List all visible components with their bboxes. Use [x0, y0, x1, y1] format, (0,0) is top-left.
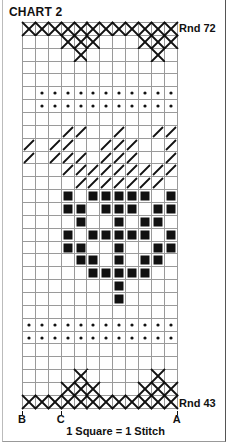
chart-cell [36, 164, 49, 177]
chart-cell [139, 139, 152, 152]
chart-cell [100, 49, 113, 62]
chart-cell [23, 229, 36, 242]
chart-cell [23, 254, 36, 267]
chart-cell [75, 49, 88, 62]
chart-cell [165, 267, 178, 280]
chart-cell [165, 36, 178, 49]
chart-cell [139, 293, 152, 306]
chart-cell [139, 62, 152, 75]
column-marker-b: B [18, 413, 26, 425]
chart-cell [165, 62, 178, 75]
column-marker-a: A [173, 413, 181, 425]
chart-cell [100, 357, 113, 370]
chart-cell [87, 49, 100, 62]
chart-cell [23, 216, 36, 229]
chart-cell [139, 280, 152, 293]
chart-cell [126, 49, 139, 62]
chart-cell [87, 293, 100, 306]
chart-cell [36, 280, 49, 293]
chart-cell [36, 229, 49, 242]
chart-cell [139, 344, 152, 357]
chart-cell [23, 242, 36, 255]
chart-cell [152, 62, 165, 75]
chart-cell [87, 344, 100, 357]
chart-cell [113, 62, 126, 75]
chart-cell [75, 280, 88, 293]
chart-cell [87, 357, 100, 370]
chart-cell [75, 293, 88, 306]
chart-cell [126, 62, 139, 75]
chart-cell [49, 280, 62, 293]
chart-cell [100, 344, 113, 357]
chart-cell [36, 62, 49, 75]
chart-cell [62, 62, 75, 75]
top-round-label: Rnd 72 [179, 22, 216, 34]
bottom-round-label: Rnd 43 [179, 397, 216, 409]
chart-cell [87, 62, 100, 75]
chart-cell [165, 254, 178, 267]
chart-cell [23, 357, 36, 370]
chart-cell [165, 293, 178, 306]
chart-cell [113, 370, 126, 383]
scale-legend: 1 Square = 1 Stitch [0, 425, 231, 437]
chart-cell [113, 344, 126, 357]
chart-cell [62, 344, 75, 357]
chart-cell [165, 49, 178, 62]
chart-cell [165, 203, 178, 216]
chart-cell [36, 254, 49, 267]
chart-cell [36, 190, 49, 203]
chart-cell [49, 254, 62, 267]
chart-cell [23, 280, 36, 293]
chart-cell [152, 254, 165, 267]
chart-cell [75, 126, 88, 139]
chart-title: CHART 2 [9, 5, 62, 19]
chart-cell [36, 370, 49, 383]
chart-cell [152, 267, 165, 280]
chart-cell [126, 344, 139, 357]
chart-cell [23, 267, 36, 280]
chart-cell [49, 62, 62, 75]
chart-cell [165, 280, 178, 293]
chart-cell [23, 62, 36, 75]
chart-cell [62, 280, 75, 293]
chart-cell [23, 36, 36, 49]
chart-cell [87, 113, 100, 126]
knitting-chart-grid [22, 22, 178, 409]
chart-cell [23, 293, 36, 306]
chart-cell [49, 344, 62, 357]
chart-cell [152, 280, 165, 293]
chart-cell [36, 113, 49, 126]
chart-cell [36, 293, 49, 306]
chart-cell [49, 293, 62, 306]
chart-cell [126, 113, 139, 126]
chart-cell [165, 242, 178, 255]
chart-cell [113, 293, 126, 306]
chart-cell [113, 49, 126, 62]
chart-cell [49, 49, 62, 62]
chart-cell [23, 190, 36, 203]
chart-cell [23, 177, 36, 190]
chart-cell [165, 332, 178, 345]
chart-cell [126, 357, 139, 370]
chart-cell [165, 357, 178, 370]
chart-cell [23, 113, 36, 126]
chart-cell [36, 357, 49, 370]
chart-cell [36, 267, 49, 280]
chart-cell [23, 370, 36, 383]
chart-cell [62, 293, 75, 306]
chart-cell [49, 357, 62, 370]
chart-cell [165, 100, 178, 113]
chart-cell [152, 344, 165, 357]
chart-cell [165, 396, 178, 409]
chart-cell [49, 267, 62, 280]
chart-cell [139, 267, 152, 280]
chart-cell [36, 242, 49, 255]
chart-cell [23, 344, 36, 357]
chart-cell [23, 49, 36, 62]
chart-cell [152, 293, 165, 306]
chart-cell [62, 267, 75, 280]
chart-cell [126, 280, 139, 293]
column-marker-c: C [57, 413, 65, 425]
chart-cell [113, 357, 126, 370]
chart-cell [23, 203, 36, 216]
